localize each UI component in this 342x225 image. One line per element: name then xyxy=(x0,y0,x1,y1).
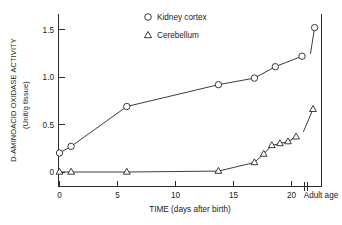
data-point-kidney-0 xyxy=(56,150,62,156)
data-point-kidney-1 xyxy=(68,143,74,149)
series-kidney-cortex-line-adult xyxy=(311,28,315,54)
data-point-kidney-18-6 xyxy=(272,63,278,69)
series-cerebellum-line-adult xyxy=(304,109,314,131)
data-point-kidney-20-9 xyxy=(299,53,305,59)
series-kidney-cortex xyxy=(56,24,318,156)
series-cerebellum xyxy=(56,106,316,175)
series-cerebellum-line xyxy=(60,137,297,172)
chart-legend: Kidney cortex Cerebellum xyxy=(144,13,206,40)
legend-marker-cerebellum xyxy=(144,32,151,38)
y-tick-label-0: 0 xyxy=(49,168,54,177)
data-point-cerebellum-adult xyxy=(310,106,317,112)
data-point-cerebellum-19-7 xyxy=(285,138,292,144)
data-point-cerebellum-5-8 xyxy=(123,168,130,174)
series-kidney-cortex-line xyxy=(60,56,303,153)
data-point-kidney-16-8 xyxy=(251,75,257,81)
axis-frame xyxy=(59,14,322,187)
data-point-cerebellum-0 xyxy=(56,168,63,174)
x-tick-label-5: 5 xyxy=(115,191,120,200)
x-tick-label-10: 10 xyxy=(171,191,181,200)
legend-label-cerebellum: Cerebellum xyxy=(157,31,199,40)
x-tick-label-adult-age: Adult age xyxy=(304,191,339,200)
data-point-cerebellum-16-8 xyxy=(251,159,258,165)
legend-label-kidney-cortex: Kidney cortex xyxy=(157,13,207,22)
y-axis-title-units: (Unit/g tissue) xyxy=(21,81,30,129)
data-point-kidney-5-8 xyxy=(124,103,130,109)
x-axis-title: TIME (days after birth) xyxy=(149,205,231,214)
y-tick-label-0-5: 0.5 xyxy=(43,121,55,130)
x-axis-ticks xyxy=(60,181,292,187)
x-tick-label-0: 0 xyxy=(57,191,62,200)
data-point-kidney-adult xyxy=(311,24,317,30)
figure-container: 0 0.5 1.0 1.5 0 5 10 15 20 Adult age TIM… xyxy=(0,0,342,225)
chart-canvas: 0 0.5 1.0 1.5 0 5 10 15 20 Adult age TIM… xyxy=(0,0,342,225)
data-point-cerebellum-1 xyxy=(68,168,75,174)
y-axis-title: D-AMINOACID OXIDASE ACTIVITY xyxy=(9,38,18,162)
legend-marker-kidney-cortex xyxy=(145,14,152,21)
data-point-cerebellum-20-4 xyxy=(293,133,300,139)
y-tick-label-1-0: 1.0 xyxy=(43,73,55,82)
y-tick-label-1-5: 1.5 xyxy=(43,26,55,35)
x-tick-label-15: 15 xyxy=(229,191,239,200)
data-point-kidney-13-7 xyxy=(215,82,221,88)
x-tick-label-20: 20 xyxy=(287,191,297,200)
